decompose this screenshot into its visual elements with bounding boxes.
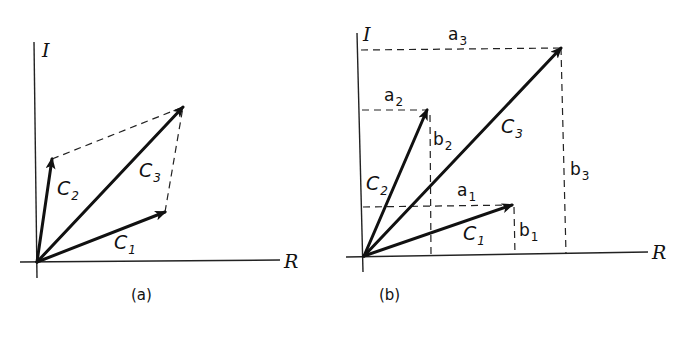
imaginary-axis-label: I <box>41 39 50 61</box>
panel-caption-a: (a) <box>131 286 152 304</box>
dashed-guide-line <box>561 48 566 254</box>
figure-canvas: R I C1C2C3 (a) R I C1C2C3 a3a2b2b3a1b1 (… <box>0 0 680 350</box>
vector-arrow-c1 <box>37 212 165 262</box>
component-label-b3: b3 <box>570 159 589 183</box>
imaginary-axis <box>34 42 37 278</box>
component-label-b1: b1 <box>519 220 538 244</box>
component-labels: a3a2b2b3a1b1 <box>384 24 589 244</box>
phasor-diagram-figure: R I C1C2C3 (a) R I C1C2C3 a3a2b2b3a1b1 (… <box>0 0 680 350</box>
component-label-a3: a3 <box>448 24 467 48</box>
component-label-a2: a2 <box>384 85 403 109</box>
vector-label-c1: C1 <box>463 222 485 248</box>
panel-a-vector-parallelogram: R I C1C2C3 (a) <box>20 39 298 304</box>
vectors: C1C2C3 <box>37 107 183 262</box>
panel-caption-b: (b) <box>379 286 400 304</box>
imaginary-axis-label: I <box>362 23 371 45</box>
dashed-guide-line <box>514 207 515 255</box>
real-axis-label: R <box>283 250 298 272</box>
dashed-guide-line <box>52 107 183 159</box>
real-axis <box>20 260 280 262</box>
vectors: C1C2C3 <box>364 48 561 256</box>
panel-b-vector-components: R I C1C2C3 a3a2b2b3a1b1 (b) <box>346 23 666 304</box>
dashed-guide-line <box>361 48 561 50</box>
real-axis <box>346 252 648 257</box>
vector-label-c3: C3 <box>139 159 161 185</box>
vector-label-c2: C2 <box>366 172 388 198</box>
real-axis-label: R <box>651 241 666 263</box>
vector-label-c3: C3 <box>501 115 523 141</box>
vector-label-c1: C1 <box>114 231 136 257</box>
component-label-b2: b2 <box>433 129 452 153</box>
vector-label-c2: C2 <box>57 177 79 203</box>
component-label-a1: a1 <box>457 180 476 204</box>
imaginary-axis <box>357 33 363 272</box>
